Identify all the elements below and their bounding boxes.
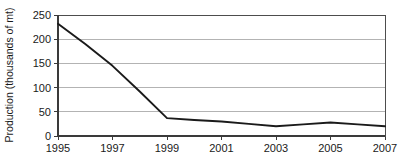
x-axis-tick-group: 1995199719992001200320052007 xyxy=(46,136,397,154)
y-axis-title: Production (thousands of mt) xyxy=(3,8,15,143)
y-axis-tick-label: 250 xyxy=(33,9,51,21)
plot-background xyxy=(58,15,385,136)
y-axis-tick-label: 150 xyxy=(33,57,51,69)
y-axis-tick-label: 200 xyxy=(33,33,51,45)
x-axis-tick-label: 1997 xyxy=(100,142,124,154)
x-axis-tick-label: 2001 xyxy=(209,142,233,154)
chart-canvas: 050100150200250 199519971999200120032005… xyxy=(0,0,410,166)
y-axis-tick-label: 0 xyxy=(45,130,51,142)
y-axis-tick-label: 50 xyxy=(39,106,51,118)
x-axis-tick-label: 2007 xyxy=(373,142,397,154)
x-axis-tick-label: 2003 xyxy=(264,142,288,154)
x-axis-tick-label: 2005 xyxy=(318,142,342,154)
x-axis-tick-label: 1999 xyxy=(155,142,179,154)
line-chart-figure: 050100150200250 199519971999200120032005… xyxy=(0,0,410,166)
y-axis-tick-group: 050100150200250 xyxy=(33,9,58,142)
x-axis-tick-label: 1995 xyxy=(46,142,70,154)
y-axis-tick-label: 100 xyxy=(33,82,51,94)
